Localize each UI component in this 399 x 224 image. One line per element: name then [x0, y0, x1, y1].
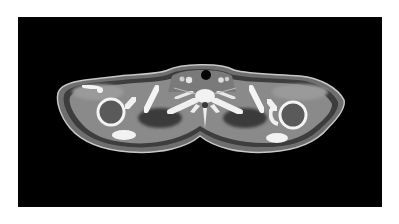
right-humeral-head	[280, 102, 306, 128]
ct-scan-image	[0, 0, 399, 224]
left-jugular	[180, 77, 185, 82]
right-scapula	[266, 133, 288, 143]
trachea	[201, 70, 211, 80]
right-jugular	[225, 77, 229, 81]
left-acromion	[84, 86, 98, 88]
left-carotid	[186, 77, 192, 83]
spinal-canal	[202, 102, 208, 108]
left-axillary-bright	[97, 87, 103, 93]
right-deltoid	[272, 84, 328, 100]
right-carotid	[218, 77, 224, 83]
left-humeral-head	[98, 99, 124, 125]
left-scapula	[112, 130, 136, 140]
